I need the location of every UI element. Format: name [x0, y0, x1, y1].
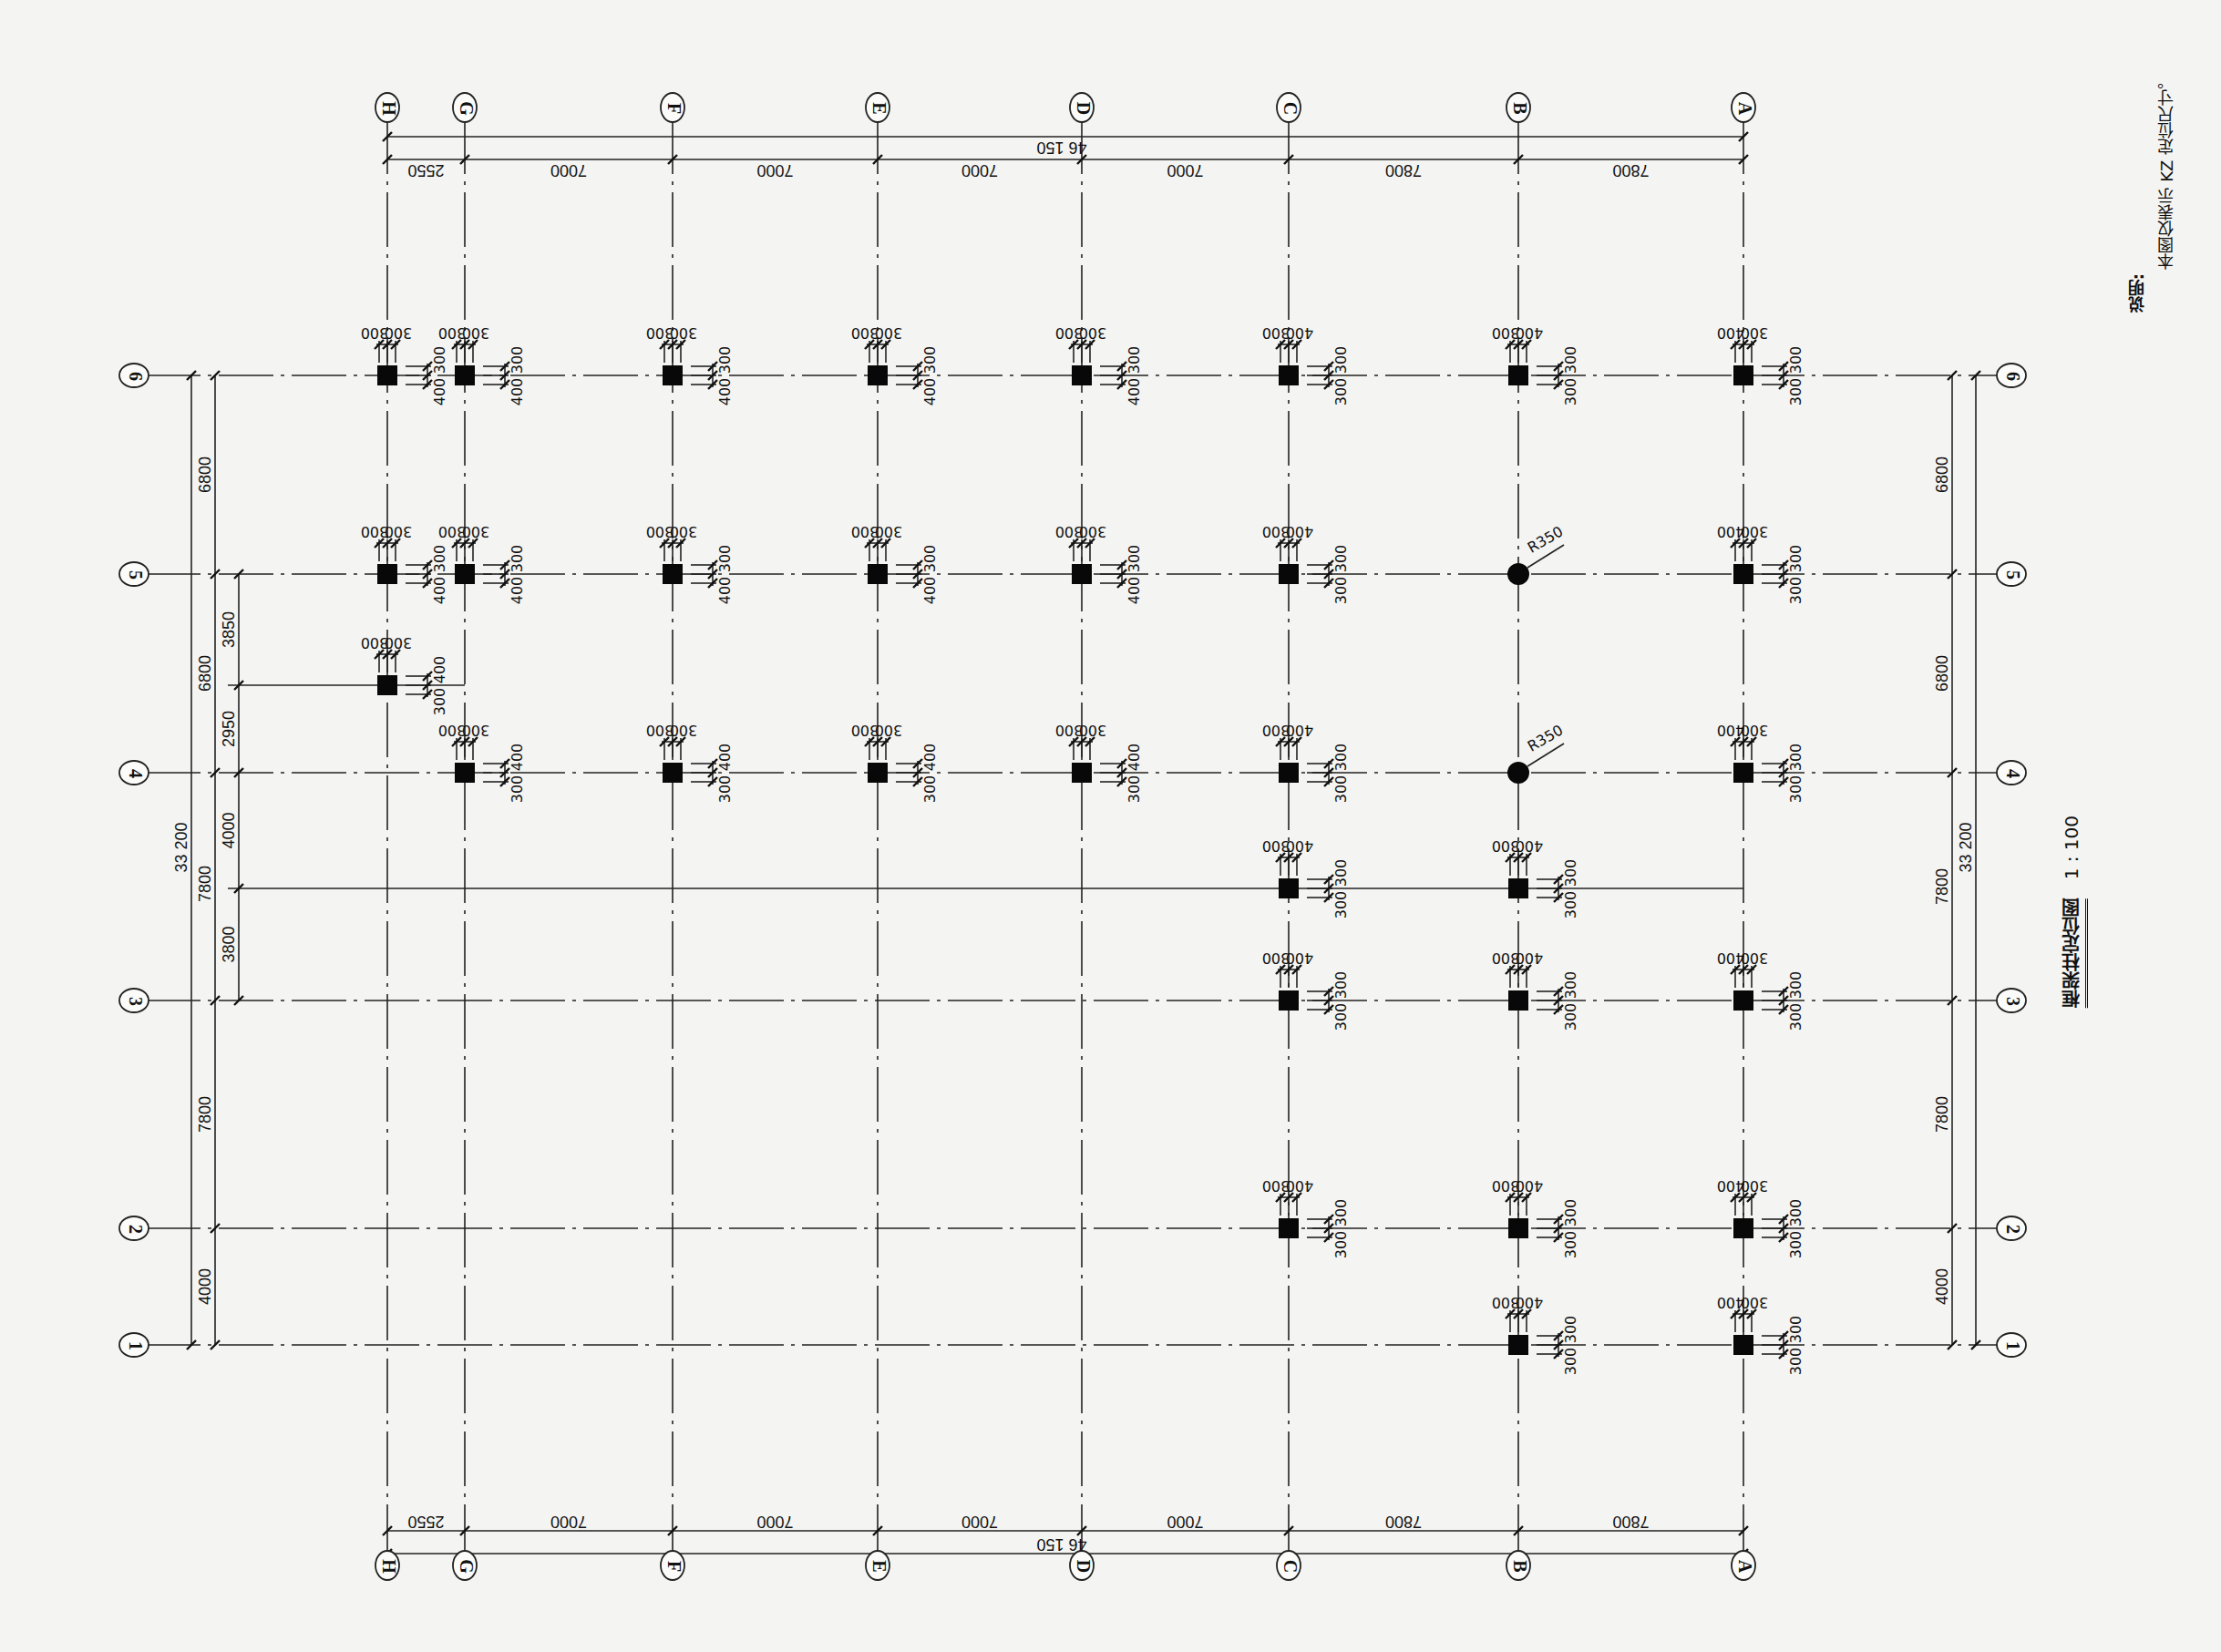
axis-label-F: F: [664, 1561, 684, 1572]
square-column: [455, 564, 475, 584]
axis-label-C: C: [1280, 102, 1301, 115]
span-dimension-text: 6800: [1933, 457, 1951, 493]
axis-bubble-A: A: [1732, 1551, 1755, 1580]
axis-bubble-5: 5: [119, 562, 149, 586]
round-column: [1507, 762, 1529, 784]
offset-text: 400: [1126, 577, 1143, 605]
offset-text: 300: [646, 722, 674, 739]
overall-dimension-text: 33 200: [172, 822, 190, 872]
square-column: [868, 365, 888, 385]
offset-text: 300: [1262, 722, 1290, 739]
axis-bubble-B: B: [1506, 93, 1530, 122]
column-H-5/4: 300300400300: [361, 634, 448, 716]
axis-label-5: 5: [126, 570, 146, 580]
axis-bubble-E: E: [866, 1551, 889, 1580]
offset-text: 300: [438, 324, 467, 342]
axis-bubble-3: 3: [119, 989, 149, 1012]
column-C4: 400300300300: [1262, 722, 1350, 804]
offset-text: 300: [1332, 744, 1350, 772]
axis-label-A: A: [1735, 102, 1755, 116]
column-F4: 300300400300: [646, 722, 734, 804]
column-B-4/3: 400300300300: [1492, 837, 1579, 919]
square-column: [1279, 763, 1299, 783]
offset-text: 300: [1492, 1177, 1520, 1195]
offset-text: 400: [431, 378, 448, 406]
span-dimension-text: 6800: [1933, 655, 1951, 692]
offset-text: 300: [361, 324, 389, 342]
offset-text: 300: [438, 722, 467, 739]
column-A2: 300400300300: [1717, 1177, 1805, 1259]
offset-text: 300: [1787, 775, 1805, 804]
offset-text: 300: [851, 722, 879, 739]
square-column: [1508, 878, 1528, 898]
span-dimension-text: 7800: [1612, 1513, 1649, 1531]
offset-text: 300: [1332, 1199, 1350, 1227]
square-column: [1279, 878, 1299, 898]
column-B3: 400300300300: [1492, 949, 1579, 1031]
span-dimension-text: 7800: [1612, 161, 1649, 180]
axis-bubble-1: 1: [119, 1333, 149, 1357]
overall-dimension-text: 46 150: [1036, 139, 1086, 157]
offset-text: 300: [509, 545, 526, 573]
span-dimension-text: 7000: [961, 161, 998, 180]
offset-text: 300: [438, 523, 467, 540]
offset-text: 400: [431, 577, 448, 605]
offset-text: 300: [1332, 378, 1350, 406]
square-column: [1072, 763, 1092, 783]
offset-text: 300: [1562, 859, 1579, 888]
offset-text: 300: [921, 775, 939, 804]
drawing-title: 框架柱定位图: [2061, 898, 2088, 1008]
offset-text: 300: [1787, 971, 1805, 1000]
offset-text: 300: [509, 346, 526, 375]
offset-text: 400: [921, 577, 939, 605]
axis-bubble-1: 1: [1997, 1333, 2026, 1357]
offset-text: 400: [716, 744, 734, 772]
offset-text: 300: [509, 775, 526, 804]
sub-dimension-text: 3850: [220, 611, 238, 648]
radius-label: R350: [1525, 721, 1567, 754]
column-A4: 300400300300: [1717, 722, 1805, 804]
offset-text: 300: [1562, 1003, 1579, 1031]
span-dimension-text: 2550: [407, 161, 444, 180]
offset-text: 300: [1562, 891, 1579, 919]
offset-text: 300: [851, 523, 879, 540]
square-column: [1279, 990, 1299, 1011]
offset-text: 300: [361, 634, 389, 652]
offset-text: 300: [1332, 545, 1350, 573]
square-column: [1733, 1335, 1753, 1355]
axis-bubble-4: 4: [119, 761, 149, 785]
offset-text: 300: [1332, 346, 1350, 375]
offset-text: 300: [1492, 837, 1520, 855]
note-text: 本图仅表示 KZ 定位尺寸。: [2155, 73, 2179, 270]
span-dimension-text: 4000: [196, 1268, 214, 1305]
axis-bubble-4: 4: [1997, 761, 2026, 785]
offset-text: 300: [1787, 1231, 1805, 1259]
axis-label-1: 1: [126, 1341, 146, 1350]
axis-label-1: 1: [2003, 1341, 2023, 1350]
sub-dimension-text: 4000: [220, 812, 238, 848]
span-dimension-text: 6800: [196, 655, 214, 692]
axis-label-B: B: [1510, 1560, 1530, 1572]
span-dimension-text: 7800: [1385, 1513, 1422, 1531]
span-dimension-text: 6800: [196, 457, 214, 493]
round-column: [1507, 563, 1529, 585]
column-layout-plan: 255070007000700070007800780046 150255070…: [0, 0, 2221, 1652]
sub-dimension-text: 3800: [220, 926, 238, 962]
span-dimension-text: 7000: [550, 161, 587, 180]
offset-text: 300: [646, 324, 674, 342]
column-B4: R350: [1507, 721, 1566, 784]
offset-text: 300: [1562, 1231, 1579, 1259]
axis-label-D: D: [1074, 1560, 1094, 1573]
axis-bubble-5: 5: [1997, 562, 2026, 586]
column-A5: 300400300300: [1717, 523, 1805, 605]
span-dimension-text: 7000: [961, 1513, 998, 1531]
offset-text: 300: [1787, 1348, 1805, 1376]
axis-bubble-D: D: [1070, 1551, 1094, 1580]
offset-text: 300: [1787, 346, 1805, 375]
axis-label-F: F: [664, 103, 684, 114]
axis-label-C: C: [1280, 1560, 1301, 1573]
column-E4: 300300400300: [851, 722, 939, 804]
span-dimension-text: 7000: [756, 161, 793, 180]
span-dimension-text: 4000: [1933, 1268, 1951, 1305]
square-column: [1733, 365, 1753, 385]
